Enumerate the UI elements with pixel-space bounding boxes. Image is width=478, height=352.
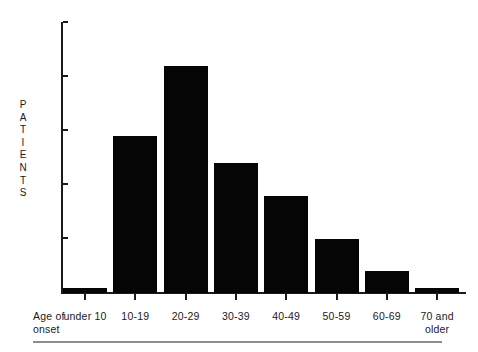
bar	[63, 288, 107, 293]
y-axis-title-letter: T	[17, 175, 29, 188]
x-axis-tick-mark	[336, 294, 338, 300]
y-axis-title: PATIENTS	[17, 99, 29, 200]
y-axis-title-letter: P	[17, 99, 29, 112]
x-axis-title: Age of onset	[33, 310, 85, 336]
bar	[264, 196, 308, 293]
x-axis-tick-mark	[84, 294, 86, 300]
bottom-rule	[33, 341, 442, 343]
x-axis-tick-mark	[185, 294, 187, 300]
bar	[315, 239, 359, 293]
bar	[164, 66, 208, 293]
bar	[415, 288, 459, 293]
x-axis-label: 70 andolder	[405, 310, 469, 336]
x-axis-label-line2: older	[405, 323, 469, 336]
y-axis-title-letter: T	[17, 124, 29, 137]
y-axis-title-letter: S	[17, 187, 29, 200]
bar	[365, 271, 409, 293]
y-axis-title-letter: I	[17, 137, 29, 150]
y-axis-title-letter: N	[17, 162, 29, 175]
y-axis-title-letter: A	[17, 112, 29, 125]
y-axis-title-letter: E	[17, 149, 29, 162]
x-axis-label-line1: 70 and	[405, 310, 469, 323]
bar	[113, 136, 157, 293]
x-axis-tick-mark	[436, 294, 438, 300]
x-axis-tick-mark	[235, 294, 237, 300]
x-axis-tick-mark	[134, 294, 136, 300]
x-axis-tick-mark	[285, 294, 287, 300]
x-axis-title-line2: onset	[33, 323, 85, 336]
bars-container	[61, 22, 473, 293]
x-axis-title-line1: Age of	[33, 310, 85, 323]
bar	[214, 163, 258, 293]
x-axis-tick-mark	[386, 294, 388, 300]
bar-chart-figure: 5004003002001000 PATIENTS under 1010-192…	[0, 0, 478, 352]
